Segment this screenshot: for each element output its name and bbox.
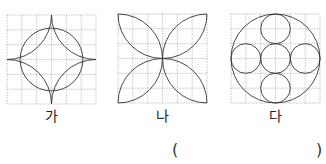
figure-ga-drawing [7, 15, 96, 104]
figure-na [118, 14, 207, 103]
figure-da-label: 다 [260, 108, 290, 124]
figure-da [231, 14, 320, 103]
answer-close-paren: ) [316, 141, 322, 159]
grid [231, 14, 320, 103]
figure-da-drawing [231, 14, 320, 103]
figure-na-drawing [118, 14, 207, 103]
figure-na-label: 나 [147, 108, 177, 124]
figure-ga [7, 15, 96, 104]
figure-ga-label: 가 [36, 108, 66, 124]
answer-open-paren: ( [172, 141, 178, 159]
